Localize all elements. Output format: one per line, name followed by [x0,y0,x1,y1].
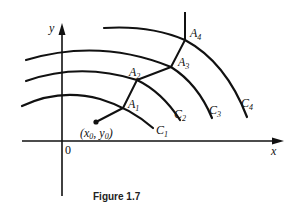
curve-label-c3: C3 [209,103,221,119]
start-point-dot [93,119,98,124]
curve-label-c2: C2 [174,107,186,123]
curve-c2 [26,71,180,120]
point-label-a3: A3 [177,55,189,71]
point-label-a2: A2 [128,65,140,81]
curve-label-c1: C1 [156,123,168,139]
point-label-a4: A4 [189,26,201,42]
curve-label-c4: C4 [241,96,253,112]
x-axis-label: x [270,144,277,158]
figure-diagram: y x 0 (x0, y0) A1 A2 A3 A4 C1 C2 C3 C4 F… [0,0,302,212]
start-point-label: (x0, y0) [80,126,113,141]
figure-caption: Figure 1.7 [93,191,141,202]
origin-label: 0 [65,143,71,157]
y-axis-arrow-icon [59,23,66,35]
y-axis-label: y [48,21,55,35]
point-label-a1: A1 [127,97,139,113]
